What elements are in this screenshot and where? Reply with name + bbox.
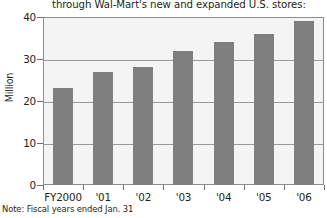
x-axis-label: '05 [256, 191, 271, 203]
x-axis-label: '01 [95, 191, 110, 203]
y-axis-label: 40 [0, 11, 36, 23]
bar-slot [83, 17, 123, 185]
bar[interactable] [93, 72, 113, 185]
x-axis-tick [163, 185, 164, 190]
x-axis-tick [123, 185, 124, 190]
bar-slot [204, 17, 244, 185]
bar[interactable] [173, 51, 193, 185]
bar-slot [123, 17, 163, 185]
x-axis-label: '02 [136, 191, 151, 203]
x-axis-tick [83, 185, 84, 190]
x-axis-tick [204, 185, 205, 190]
bar[interactable] [294, 21, 314, 185]
bar[interactable] [254, 34, 274, 185]
x-axis-label: FY2000 [44, 191, 82, 203]
y-axis-label: 30 [0, 53, 36, 65]
bar-slot [284, 17, 324, 185]
y-axis: 010203040 [0, 0, 43, 218]
y-axis-label: 20 [0, 95, 36, 107]
x-axis-tick [43, 185, 44, 190]
y-axis-label: 0 [0, 179, 36, 191]
y-axis-label: 10 [0, 137, 36, 149]
bar-slot [163, 17, 203, 185]
x-axis-label: '04 [216, 191, 231, 203]
x-axis-tick [324, 185, 325, 190]
bar-slot [244, 17, 284, 185]
bars-layer [43, 17, 324, 185]
chart-title: through Wal-Mart's new and expanded U.S.… [52, 0, 327, 11]
x-axis-tick [284, 185, 285, 190]
bar-chart-figure: through Wal-Mart's new and expanded U.S.… [0, 0, 327, 218]
x-axis-label: '06 [296, 191, 311, 203]
bar[interactable] [214, 42, 234, 185]
x-axis-label: '03 [176, 191, 191, 203]
bar[interactable] [133, 67, 153, 185]
chart-footnote: Note: Fiscal years ended Jan. 31 [2, 204, 133, 214]
x-axis-tick [244, 185, 245, 190]
bar-slot [43, 17, 83, 185]
bar[interactable] [53, 88, 73, 185]
